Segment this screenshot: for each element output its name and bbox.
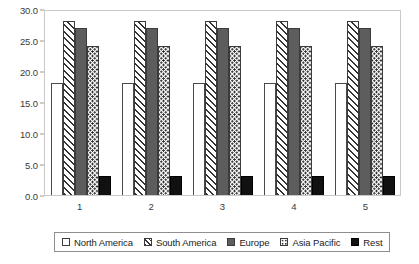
bar — [383, 176, 395, 195]
x-axis-tick-label: 5 — [363, 201, 368, 212]
x-axis: 12345 — [44, 198, 401, 216]
bar — [359, 28, 371, 195]
bar — [158, 46, 170, 195]
bar — [288, 28, 300, 195]
y-axis-tick-label: 5.0 — [25, 160, 38, 171]
bar — [264, 83, 276, 195]
bar — [134, 21, 146, 195]
bar — [75, 28, 87, 195]
plot-area — [45, 11, 400, 195]
bar — [276, 21, 288, 195]
bar-group — [258, 11, 329, 195]
bar — [193, 83, 205, 195]
legend-label: Europe — [239, 237, 269, 248]
legend-swatch-icon — [227, 238, 235, 246]
bar — [63, 21, 75, 195]
bar — [87, 46, 99, 195]
plot-frame — [44, 10, 401, 196]
bar — [146, 28, 158, 195]
y-axis-tick-label: 10.0 — [20, 129, 38, 140]
legend-label: Asia Pacific — [292, 237, 340, 248]
bar-group — [187, 11, 258, 195]
bar-group — [45, 11, 116, 195]
legend-item: Rest — [351, 237, 382, 248]
bar-group — [329, 11, 400, 195]
legend-item: South America — [144, 237, 216, 248]
legend-label: South America — [156, 237, 216, 248]
bar — [229, 46, 241, 195]
bar — [99, 176, 111, 195]
bar — [300, 46, 312, 195]
legend-item: North America — [62, 237, 133, 248]
bar — [241, 176, 253, 195]
legend-item: Asia Pacific — [280, 237, 340, 248]
bar-chart: 0.05.010.015.020.025.030.0 12345 North A… — [0, 0, 419, 264]
bar — [312, 176, 324, 195]
bar — [51, 83, 63, 195]
bar-group — [116, 11, 187, 195]
y-axis-tick-label: 25.0 — [20, 36, 38, 47]
chart-legend: North AmericaSouth AmericaEuropeAsia Pac… — [54, 232, 390, 252]
bar — [217, 28, 229, 195]
y-axis: 0.05.010.015.020.025.030.0 — [0, 10, 44, 196]
legend-label: North America — [74, 237, 133, 248]
bar — [347, 21, 359, 195]
x-axis-tick-label: 1 — [77, 201, 82, 212]
bar — [170, 176, 182, 195]
legend-label: Rest — [363, 237, 382, 248]
y-axis-tick-label: 20.0 — [20, 67, 38, 78]
y-axis-tick-label: 15.0 — [20, 98, 38, 109]
legend-swatch-icon — [144, 238, 152, 246]
y-axis-tick-label: 0.0 — [25, 191, 38, 202]
legend-swatch-icon — [351, 238, 359, 246]
x-axis-tick-label: 4 — [291, 201, 296, 212]
bar — [205, 21, 217, 195]
x-axis-tick-label: 2 — [148, 201, 153, 212]
legend-item: Europe — [227, 237, 269, 248]
y-axis-tick-label: 30.0 — [20, 5, 38, 16]
bar — [335, 83, 347, 195]
bar — [122, 83, 134, 195]
legend-swatch-icon — [280, 238, 288, 246]
legend-swatch-icon — [62, 238, 70, 246]
x-axis-tick-label: 3 — [220, 201, 225, 212]
bar — [371, 46, 383, 195]
